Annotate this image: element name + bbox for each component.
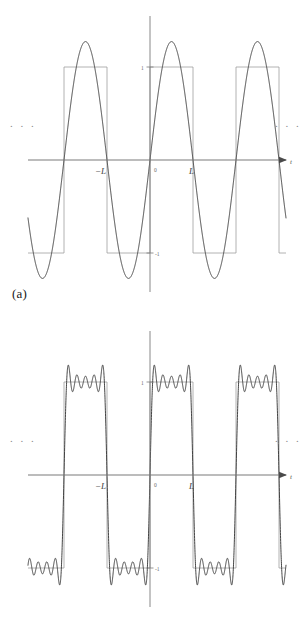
figure-panel-b: t−L0L1-1. . .. . . (b) — [0, 315, 307, 631]
ellipsis-left: . . . — [10, 432, 36, 444]
ellipsis-right: . . . — [275, 432, 301, 444]
y-tick-label-one: 1 — [141, 380, 144, 386]
x-axis-name: t — [290, 473, 293, 481]
x-axis-name: t — [290, 158, 293, 166]
panel-a-caption: (a) — [12, 286, 27, 302]
x-tick-label-L: L — [188, 481, 194, 491]
ellipsis-left: . . . — [10, 117, 36, 129]
plot-a: t−L0L1-1. . .. . . — [0, 0, 307, 315]
x-tick-label-L: L — [188, 166, 194, 176]
y-tick-label-minus-one: -1 — [155, 566, 160, 572]
x-tick-label-minus-L: −L — [95, 166, 106, 176]
x-tick-label-zero: 0 — [154, 167, 157, 173]
x-tick-label-zero: 0 — [154, 482, 157, 488]
x-tick-label-minus-L: −L — [95, 481, 106, 491]
x-axis-arrowhead — [279, 157, 287, 163]
x-axis-arrowhead — [279, 472, 287, 478]
y-tick-label-one: 1 — [141, 65, 144, 71]
y-tick-label-minus-one: -1 — [155, 251, 160, 257]
ellipsis-right: . . . — [275, 117, 301, 129]
figure-panel-a: t−L0L1-1. . .. . . (a) — [0, 0, 307, 315]
plot-b: t−L0L1-1. . .. . . — [0, 315, 307, 631]
